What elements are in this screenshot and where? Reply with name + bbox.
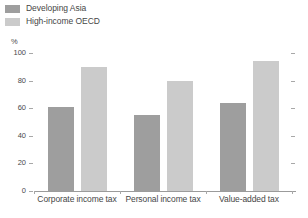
bar (81, 67, 107, 191)
chart-legend: Developing Asia High-income OECD (5, 3, 205, 29)
bar-group (206, 53, 292, 191)
y-tick-mark-left (29, 191, 33, 192)
bar (167, 81, 193, 191)
bar-group (120, 53, 206, 191)
bar-groups (34, 53, 292, 191)
y-tick-mark-left (29, 53, 33, 54)
bar (48, 107, 74, 191)
x-axis-labels: Corporate income taxPersonal income taxV… (34, 194, 292, 205)
legend-swatch-icon-developing-asia (5, 5, 20, 13)
x-axis-tick-mark (120, 191, 121, 194)
y-axis-tick-label: 100 (13, 49, 26, 57)
y-axis-tick-label: 40 (18, 132, 26, 140)
x-axis-category-label: Personal income tax (120, 194, 206, 205)
legend-label-high-income-oecd: High-income OECD (26, 17, 100, 26)
y-axis-unit-label: % (11, 37, 18, 46)
y-tick-mark-left (29, 163, 33, 164)
bar (253, 61, 279, 191)
x-axis-tick-mark (292, 191, 293, 194)
legend-item-high-income-oecd: High-income OECD (5, 16, 205, 27)
legend-label-developing-asia: Developing Asia (26, 4, 86, 13)
bar (134, 115, 160, 191)
bar-group (34, 53, 120, 191)
legend-item-developing-asia: Developing Asia (5, 3, 205, 14)
y-axis-tick-label: 80 (18, 77, 26, 85)
x-axis-category-label: Value-added tax (206, 194, 292, 205)
y-axis-tick-label: 20 (18, 159, 26, 167)
bar (220, 103, 246, 191)
y-tick-mark-left (29, 81, 33, 82)
y-tick-mark-left (29, 108, 33, 109)
legend-swatch-icon-high-income-oecd (5, 18, 20, 26)
x-axis-category-label: Corporate income tax (34, 194, 120, 205)
x-axis-tick-mark (34, 191, 35, 194)
y-tick-mark-left (29, 136, 33, 137)
bar-chart-figure: Developing Asia High-income OECD % 10080… (0, 0, 308, 218)
y-axis-tick-labels: 100806040200 (4, 53, 26, 191)
y-axis-tick-label: 60 (18, 104, 26, 112)
x-axis-baseline (34, 191, 296, 192)
x-axis-tick-mark (206, 191, 207, 194)
y-axis-tick-label: 0 (22, 187, 26, 195)
